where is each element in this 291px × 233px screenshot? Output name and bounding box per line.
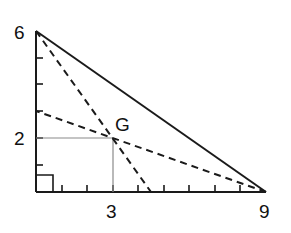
label-centroid-g: G [115,114,130,135]
label-y-6: 6 [14,22,25,43]
label-x-3: 3 [106,201,117,222]
triangle-diagram: 6 2 3 9 G [0,0,291,233]
median-from-right [36,111,266,192]
label-x-9: 9 [259,201,270,222]
right-angle-marker [36,175,53,192]
hypotenuse [36,31,266,192]
label-y-2: 2 [14,128,25,149]
median-from-top [36,31,151,192]
